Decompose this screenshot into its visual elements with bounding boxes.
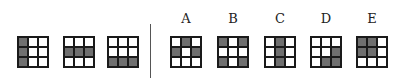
shaded-cell [109,58,117,66]
empty-cell [322,38,330,46]
empty-cell [378,38,386,46]
option-label-b: B [217,11,249,26]
empty-cell [182,58,190,66]
empty-cell [378,58,386,66]
empty-cell [29,38,37,46]
option-grid-c[interactable] [264,36,296,68]
empty-cell [75,38,83,46]
divider-line [150,24,151,78]
shaded-cell [75,48,83,56]
shaded-cell [65,48,73,56]
empty-cell [29,48,37,56]
empty-cell [65,58,73,66]
empty-cell [266,38,274,46]
shaded-cell [129,58,137,66]
shaded-cell [276,38,284,46]
empty-cell [312,38,320,46]
shaded-cell [368,38,376,46]
shaded-cell [358,48,366,56]
option-label-e: E [356,11,388,26]
empty-cell [29,58,37,66]
option-label-a: A [170,11,202,26]
empty-cell [39,38,47,46]
option-grid-e[interactable] [356,36,388,68]
empty-cell [358,58,366,66]
shaded-cell [276,48,284,56]
shaded-cell [119,58,127,66]
shaded-cell [332,58,340,66]
empty-cell [119,48,127,56]
empty-cell [172,58,180,66]
empty-cell [119,38,127,46]
empty-cell [266,48,274,56]
shaded-cell [19,58,27,66]
shaded-cell [182,38,190,46]
option-grid-d[interactable] [310,36,342,68]
empty-cell [65,38,73,46]
empty-cell [129,48,137,56]
empty-cell [322,48,330,56]
shaded-cell [239,38,247,46]
empty-cell [75,58,83,66]
empty-cell [229,58,237,66]
shaded-cell [219,38,227,46]
shaded-cell [239,58,247,66]
empty-cell [192,58,200,66]
empty-cell [109,48,117,56]
question-grid-2 [63,36,95,68]
empty-cell [312,48,320,56]
shaded-cell [172,48,180,56]
empty-cell [368,58,376,66]
empty-cell [109,38,117,46]
empty-cell [286,58,294,66]
option-grid-b[interactable] [217,36,249,68]
shaded-cell [192,48,200,56]
empty-cell [85,58,93,66]
option-label-c: C [264,11,296,26]
empty-cell [286,48,294,56]
empty-cell [39,58,47,66]
question-grid-1 [17,36,49,68]
empty-cell [378,48,386,56]
empty-cell [39,48,47,56]
empty-cell [182,48,190,56]
shaded-cell [276,58,284,66]
empty-cell [286,38,294,46]
empty-cell [219,48,227,56]
empty-cell [129,38,137,46]
shaded-cell [322,58,330,66]
empty-cell [312,58,320,66]
empty-cell [266,58,274,66]
empty-cell [229,48,237,56]
shaded-cell [358,38,366,46]
empty-cell [239,48,247,56]
empty-cell [85,38,93,46]
option-grid-a[interactable] [170,36,202,68]
empty-cell [192,38,200,46]
shaded-cell [19,38,27,46]
shaded-cell [85,48,93,56]
shaded-cell [219,58,227,66]
empty-cell [332,38,340,46]
shaded-cell [332,48,340,56]
shaded-cell [19,48,27,56]
question-grid-3 [107,36,139,68]
empty-cell [229,38,237,46]
shaded-cell [368,48,376,56]
empty-cell [172,38,180,46]
option-label-d: D [310,11,342,26]
